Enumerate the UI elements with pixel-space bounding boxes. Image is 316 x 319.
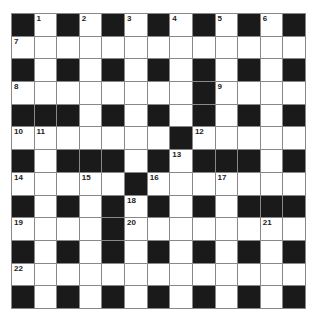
answer-cell[interactable]: 10 [12,127,34,149]
answer-cell[interactable] [261,82,283,104]
answer-cell[interactable] [57,127,79,149]
answer-cell[interactable] [148,37,170,59]
answer-cell[interactable]: 15 [80,173,102,195]
answer-cell[interactable] [35,241,57,263]
answer-cell[interactable]: 9 [216,82,238,104]
answer-cell[interactable] [80,82,102,104]
answer-cell[interactable] [102,264,124,286]
answer-cell[interactable] [283,173,305,195]
answer-cell[interactable] [35,286,57,308]
answer-cell[interactable] [283,37,305,59]
answer-cell[interactable] [283,264,305,286]
answer-cell[interactable]: 18 [125,196,147,218]
answer-cell[interactable]: 3 [125,14,147,36]
answer-cell[interactable] [261,241,283,263]
answer-cell[interactable] [283,127,305,149]
answer-cell[interactable]: 14 [12,173,34,195]
answer-cell[interactable] [261,37,283,59]
answer-cell[interactable] [216,241,238,263]
answer-cell[interactable] [238,218,260,240]
answer-cell[interactable]: 8 [12,82,34,104]
answer-cell[interactable] [193,264,215,286]
answer-cell[interactable]: 13 [170,150,192,172]
answer-cell[interactable] [35,37,57,59]
answer-cell[interactable] [35,59,57,81]
answer-cell[interactable] [193,173,215,195]
answer-cell[interactable] [283,82,305,104]
answer-cell[interactable] [238,173,260,195]
answer-cell[interactable] [238,127,260,149]
answer-cell[interactable] [102,127,124,149]
answer-cell[interactable]: 4 [170,14,192,36]
answer-cell[interactable] [57,37,79,59]
answer-cell[interactable] [170,173,192,195]
answer-cell[interactable] [57,82,79,104]
answer-cell[interactable] [80,264,102,286]
answer-cell[interactable] [125,264,147,286]
answer-cell[interactable] [216,59,238,81]
answer-cell[interactable] [80,286,102,308]
answer-cell[interactable] [261,286,283,308]
answer-cell[interactable] [170,286,192,308]
answer-cell[interactable] [170,105,192,127]
answer-cell[interactable] [102,37,124,59]
answer-cell[interactable]: 21 [261,218,283,240]
answer-cell[interactable] [148,218,170,240]
answer-cell[interactable] [170,264,192,286]
answer-cell[interactable] [261,173,283,195]
answer-cell[interactable] [216,105,238,127]
answer-cell[interactable] [35,264,57,286]
answer-cell[interactable]: 11 [35,127,57,149]
answer-cell[interactable] [238,82,260,104]
answer-cell[interactable] [216,37,238,59]
answer-cell[interactable] [35,150,57,172]
answer-cell[interactable] [216,127,238,149]
answer-cell[interactable] [170,218,192,240]
answer-cell[interactable] [57,264,79,286]
answer-cell[interactable] [148,264,170,286]
answer-cell[interactable]: 17 [216,173,238,195]
answer-cell[interactable] [125,82,147,104]
answer-cell[interactable]: 7 [12,37,34,59]
answer-cell[interactable] [193,218,215,240]
answer-cell[interactable] [170,82,192,104]
answer-cell[interactable] [216,196,238,218]
answer-cell[interactable] [261,105,283,127]
answer-cell[interactable] [193,37,215,59]
answer-cell[interactable] [80,59,102,81]
answer-cell[interactable]: 1 [35,14,57,36]
answer-cell[interactable] [35,218,57,240]
answer-cell[interactable] [35,196,57,218]
answer-cell[interactable]: 20 [125,218,147,240]
answer-cell[interactable] [125,59,147,81]
answer-cell[interactable] [102,173,124,195]
answer-cell[interactable] [170,37,192,59]
answer-cell[interactable] [125,286,147,308]
answer-cell[interactable] [57,173,79,195]
answer-cell[interactable]: 22 [12,264,34,286]
answer-cell[interactable] [216,264,238,286]
answer-cell[interactable]: 6 [261,14,283,36]
answer-cell[interactable] [216,286,238,308]
answer-cell[interactable] [238,37,260,59]
answer-cell[interactable] [216,218,238,240]
answer-cell[interactable]: 19 [12,218,34,240]
answer-cell[interactable] [125,241,147,263]
answer-cell[interactable] [148,127,170,149]
answer-cell[interactable] [80,218,102,240]
answer-cell[interactable] [261,127,283,149]
answer-cell[interactable] [170,59,192,81]
answer-cell[interactable] [80,196,102,218]
answer-cell[interactable] [80,105,102,127]
answer-cell[interactable] [148,82,170,104]
answer-cell[interactable] [102,82,124,104]
answer-cell[interactable] [261,264,283,286]
answer-cell[interactable]: 2 [80,14,102,36]
answer-cell[interactable]: 5 [216,14,238,36]
answer-cell[interactable] [261,150,283,172]
answer-cell[interactable]: 16 [148,173,170,195]
answer-cell[interactable] [125,37,147,59]
answer-cell[interactable] [125,150,147,172]
answer-cell[interactable] [125,127,147,149]
answer-cell[interactable]: 12 [193,127,215,149]
